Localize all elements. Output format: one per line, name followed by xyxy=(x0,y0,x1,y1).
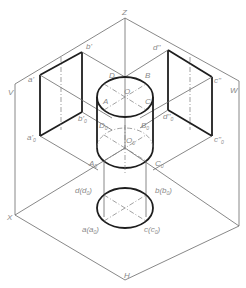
label-z: Z xyxy=(121,8,128,17)
v-projection-rect xyxy=(40,52,125,170)
label-a-a0: a(a0) xyxy=(82,225,99,235)
label-D: D xyxy=(109,71,115,80)
w-projection-rect xyxy=(125,50,212,170)
y-axis-h xyxy=(125,148,239,226)
label-a-prime: a' xyxy=(28,75,34,84)
label-A: A xyxy=(102,97,108,106)
label-c-dprime: c'' xyxy=(214,76,222,85)
label-b-prime: b' xyxy=(86,42,92,51)
label-b-b0: b(b0) xyxy=(155,186,172,196)
label-h: H xyxy=(124,271,130,280)
projection-diagram: Z V W X H b' a' a'0 b'0 d'' c'' d''0 c''… xyxy=(0,0,246,288)
label-w: W xyxy=(230,86,239,95)
label-C0: C0 xyxy=(155,159,164,169)
x-axis xyxy=(15,148,125,215)
label-A0: A0 xyxy=(88,159,97,169)
label-C: C xyxy=(145,97,151,106)
projection-planes xyxy=(15,18,239,280)
label-O0: O0 xyxy=(126,136,135,146)
label-c-dprime-0: c''0 xyxy=(214,135,224,145)
label-c-c0: c(c0) xyxy=(144,225,160,235)
label-b-prime-0: b'0 xyxy=(78,114,87,124)
label-d-dprime: d'' xyxy=(153,43,161,52)
top-plane-edges xyxy=(15,18,239,84)
label-d-d0: d(d0) xyxy=(75,186,92,196)
label-x: X xyxy=(6,213,13,222)
label-d-dprime-0: d''0 xyxy=(163,112,174,122)
label-O: O xyxy=(124,87,130,96)
label-D0: D0 xyxy=(99,121,108,131)
label-B: B xyxy=(145,71,151,80)
labels: Z V W X H b' a' a'0 b'0 d'' c'' d''0 c''… xyxy=(6,8,239,280)
label-a-prime-0: a'0 xyxy=(27,133,36,143)
label-v: V xyxy=(8,88,14,97)
